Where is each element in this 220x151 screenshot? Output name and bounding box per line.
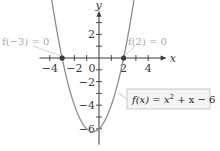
parabola-chart: xy −4−20242−2−4−6 f(−3) = 0 f(2) = 0 f(x… (0, 0, 220, 151)
axes: xy (40, 0, 177, 145)
annotation-root-left: f(−3) = 0 (2, 36, 49, 47)
x-tick-label: −4 (42, 62, 58, 75)
root-point (121, 55, 126, 60)
x-tick-label: 0 (89, 62, 96, 75)
y-axis-label: y (95, 0, 103, 12)
y-tick-label: −4 (79, 99, 95, 112)
legend-leader (118, 93, 127, 99)
y-tick-label: −2 (79, 76, 95, 89)
equation-legend: f(x) = x2 + x − 6 (118, 89, 215, 109)
x-tick-label: 4 (145, 62, 152, 75)
x-axis-label: x (170, 52, 177, 65)
annotation-root-right: f(2) = 0 (128, 36, 167, 47)
x-tick-label: −2 (66, 62, 82, 75)
legend-equation-lhs: f(x) = x (131, 94, 170, 105)
legend-equation-rhs: + x − 6 (174, 94, 215, 105)
root-point (60, 55, 65, 60)
annotation-leader-left (33, 46, 61, 56)
y-tick-label: 2 (88, 28, 95, 41)
legend-equation: f(x) = x2 + x − 6 (131, 93, 215, 105)
annotations: f(−3) = 0 f(2) = 0 (2, 36, 167, 56)
x-axis-arrow (161, 56, 167, 61)
